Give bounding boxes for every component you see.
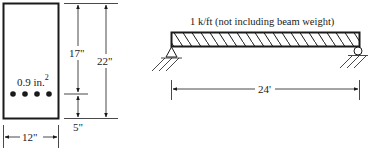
beam-elevation: 1 k/ft (not including beam weight) 24' xyxy=(152,16,368,100)
distributed-load-block xyxy=(172,33,360,47)
rebar-group xyxy=(10,91,52,97)
width-label: 12" xyxy=(22,131,38,143)
effective-depth-label: 17" xyxy=(69,47,85,59)
diagram-canvas: 0.9 in.2 17" 5" 22" 12" 1 k/ft (not xyxy=(0,0,371,156)
span-label: 24' xyxy=(258,83,271,95)
section-outline xyxy=(4,4,59,119)
rebar-icon xyxy=(46,91,52,97)
pin-support-icon xyxy=(152,47,182,71)
roller-support-icon xyxy=(340,47,368,68)
total-depth-label: 22" xyxy=(97,55,113,67)
rebar-icon xyxy=(22,91,28,97)
rebar-area-label: 0.9 in.2 xyxy=(17,73,49,88)
beam-cross-section: 0.9 in.2 17" 5" 22" 12" xyxy=(4,4,119,149)
rebar-icon xyxy=(34,91,40,97)
distributed-load-label: 1 k/ft (not including beam weight) xyxy=(190,16,335,28)
cover-label: 5" xyxy=(73,121,83,133)
rebar-icon xyxy=(10,91,16,97)
